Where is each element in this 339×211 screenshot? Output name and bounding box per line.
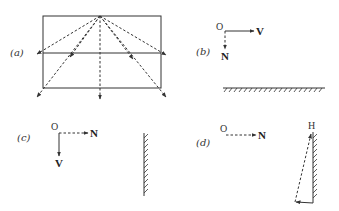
vector-v-label: V [256,25,264,37]
ray-inner-left [70,16,100,57]
panel-b: (b) O V N [196,21,325,92]
panel-d: (d) O N H [196,120,317,203]
point-h-label: H [308,120,315,131]
vector-n-label: N [90,127,98,139]
vector-n-label: N [221,50,229,62]
ground-surface [223,88,325,92]
panel-c-label: (c) [17,132,31,143]
vector-n-label: N [258,129,266,141]
origin-label: O [220,123,227,134]
panel-a: (a) [10,16,166,99]
panel-d-label: (d) [196,137,210,148]
rectangle [43,16,161,88]
panel-b-label: (b) [196,46,210,57]
rays [37,16,166,99]
vector-v-label: V [55,157,63,169]
ray-left-mid [37,16,100,54]
panel-a-label: (a) [10,47,24,58]
wall-surface [144,133,148,196]
origin-label: O [216,21,223,32]
wall-surface [313,132,317,203]
panel-c: (c) O N V [17,121,148,196]
diagram-canvas: (a) (b) O V N [0,0,339,211]
ray-right-bottom [100,16,166,97]
diagonal-dashed-arrow [295,134,311,202]
ray-right-mid [100,16,166,55]
origin-label: O [51,121,58,132]
base-solid-arrow [296,202,313,203]
